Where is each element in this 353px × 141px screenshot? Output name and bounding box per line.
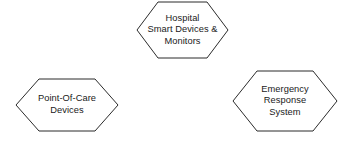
node-label-point-of-care: Point-Of-Care Devices (37, 93, 97, 116)
node-point-of-care[interactable]: Point-Of-Care Devices (15, 78, 119, 132)
node-emergency-response[interactable]: Emergency Response System (232, 70, 338, 132)
diagram-canvas: Hospital Smart Devices & Monitors Point-… (0, 0, 353, 141)
node-hospital-smart-devices[interactable]: Hospital Smart Devices & Monitors (136, 1, 229, 59)
node-label-emergency-response: Emergency Response System (260, 84, 309, 119)
node-label-hospital-smart-devices: Hospital Smart Devices & Monitors (147, 13, 219, 48)
